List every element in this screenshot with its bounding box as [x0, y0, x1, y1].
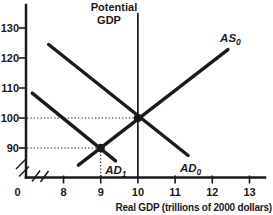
equilibrium-point-10-100 — [134, 114, 142, 122]
x-tick-label-11: 11 — [169, 186, 181, 198]
potential-gdp-label-line1: Potential — [91, 1, 137, 13]
y-tick-label-120: 120 — [1, 52, 19, 64]
asad-economics-figure: 901001101201308910111213AS0AD0AD1 Potent… — [0, 0, 273, 215]
aggregate-supply-0-label: AS0 — [219, 32, 241, 47]
origin-label: 0 — [14, 186, 20, 198]
aggregate-demand-0-label: AD0 — [179, 162, 202, 177]
chart-generated-layer: 901001101201308910111213AS0AD0AD1 — [1, 5, 265, 198]
x-axis-break-mark — [32, 171, 40, 182]
y-axis-break-mark — [16, 159, 26, 169]
equilibrium-point-9-90 — [97, 144, 105, 152]
y-tick-label-130: 130 — [1, 22, 19, 34]
x-tick-label-8: 8 — [60, 186, 66, 198]
y-tick-label-100: 100 — [1, 112, 19, 124]
y-tick-label-110: 110 — [1, 82, 19, 94]
x-axis-title: Real GDP (trillions of 2000 dollars) — [115, 202, 272, 213]
asad-chart-svg: 901001101201308910111213AS0AD0AD1 Potent… — [0, 0, 273, 215]
x-tick-label-10: 10 — [132, 186, 144, 198]
y-axis-break-mark — [19, 167, 29, 177]
x-tick-label-9: 9 — [98, 186, 104, 198]
potential-gdp-label-line2: GDP — [97, 14, 121, 26]
x-tick-label-13: 13 — [243, 186, 255, 198]
y-tick-label-90: 90 — [7, 142, 19, 154]
aggregate-demand-0-curve — [49, 45, 189, 156]
x-tick-label-12: 12 — [206, 186, 218, 198]
